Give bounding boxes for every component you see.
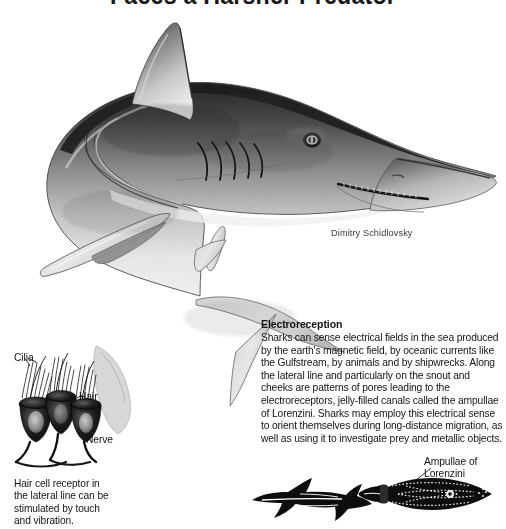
- label-ampullae-of-lorenzini: Ampullae of Lorenzini: [424, 456, 500, 480]
- label-nerve: Nerve: [86, 434, 113, 446]
- hair-cell-receptor-diagram: [16, 346, 131, 467]
- shark-eye: [304, 133, 321, 147]
- electroreception-body: Sharks can sense electrical fields in th…: [261, 332, 504, 445]
- electroreception-block: Electroreception Sharks can sense electr…: [261, 318, 504, 445]
- shark-silhouette-partial: [359, 486, 381, 502]
- leader-nerve: [82, 436, 85, 438]
- artist-credit: Dimitry Schidlovsky: [331, 228, 413, 238]
- label-cilia: Cilia: [14, 352, 34, 364]
- shark-head-ampullae-diagram: [378, 478, 492, 510]
- hair-cell-caption: Hair cell receptor in the lateral line c…: [14, 478, 110, 528]
- gill-slits: [198, 142, 262, 180]
- infographic-page: Faces a Harsher Predator: [0, 0, 506, 529]
- shark-body-silhouette: [252, 478, 372, 521]
- electroreception-heading: Electroreception: [261, 318, 504, 331]
- label-hair-cell: Hair cell: [79, 391, 113, 415]
- page-title: Faces a Harsher Predator: [18, 0, 489, 10]
- illustration-canvas: [0, 0, 506, 529]
